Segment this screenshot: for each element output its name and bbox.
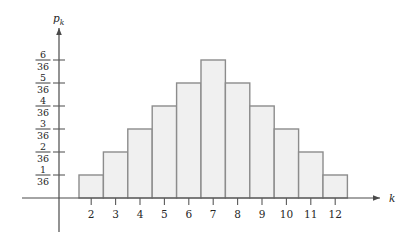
histogram-bar (250, 106, 274, 198)
fraction-numerator: 6 (40, 49, 46, 60)
fraction-numerator: 2 (40, 141, 46, 152)
fraction-denominator: 36 (37, 84, 49, 95)
histogram-bar (152, 106, 176, 198)
x-axis-tick-label: 3 (112, 208, 119, 220)
x-axis-tick-label: 4 (137, 208, 144, 220)
x-axis-tick-label: 10 (280, 208, 293, 220)
histogram-bar (103, 152, 127, 198)
y-ticks-group: 136236336436536636 (36, 49, 66, 187)
fraction-numerator: 5 (40, 72, 46, 83)
histogram-bar (79, 175, 103, 198)
x-axis-tick-label: 6 (185, 208, 192, 220)
histogram-bar (177, 83, 201, 198)
y-axis-tick-label: 336 (36, 118, 51, 141)
fraction-numerator: 4 (40, 95, 46, 106)
histogram-bar (201, 60, 225, 198)
x-axis-tick-label: 5 (161, 208, 168, 220)
x-axis-tick-label: 11 (304, 208, 317, 220)
histogram-bar (128, 129, 152, 198)
bars-group (79, 60, 347, 198)
fraction-denominator: 36 (37, 130, 49, 141)
x-axis-tick-label: 7 (210, 208, 217, 220)
x-axis-tick-label: 2 (88, 208, 95, 220)
x-axis-tick-label: 8 (234, 208, 241, 220)
histogram-bar (299, 152, 323, 198)
fraction-denominator: 36 (37, 107, 49, 118)
y-axis-arrow (56, 28, 62, 35)
dice-sum-probability-chart: 23456789101112136236336436536636pkk (0, 0, 409, 252)
histogram-bar (225, 83, 249, 198)
fraction-numerator: 1 (40, 164, 46, 175)
y-axis-tick-label: 636 (36, 49, 51, 72)
histogram-bar (323, 175, 347, 198)
fraction-denominator: 36 (37, 61, 49, 72)
fraction-denominator: 36 (37, 176, 49, 187)
probability-histogram-figure: 23456789101112136236336436536636pkk (0, 0, 409, 252)
x-axis-tick-label: 12 (329, 208, 342, 220)
y-axis-tick-label: 436 (36, 95, 51, 118)
y-axis-tick-label: 236 (36, 141, 51, 164)
x-axis-tick-label: 9 (259, 208, 266, 220)
x-axis-arrow (373, 195, 380, 201)
x-ticks-group: 23456789101112 (88, 198, 342, 220)
y-axis-tick-label: 136 (36, 164, 51, 187)
fraction-numerator: 3 (40, 118, 46, 129)
histogram-bar (274, 129, 298, 198)
y-axis-title: pk (53, 12, 65, 27)
x-axis-title: k (389, 192, 395, 204)
fraction-denominator: 36 (37, 153, 49, 164)
y-axis-tick-label: 536 (36, 72, 51, 95)
